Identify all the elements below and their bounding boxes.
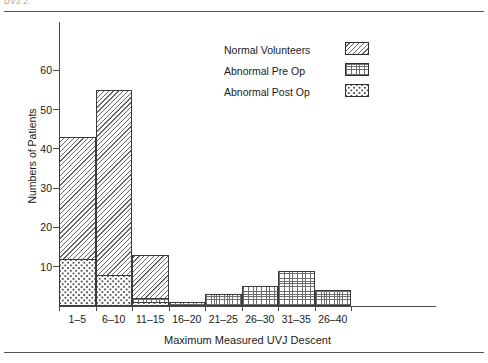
x-axis-tick — [351, 306, 352, 311]
bar — [242, 286, 279, 306]
bar-chart-plot: 102030405060 1–56–1011–1516–2021–2526–30… — [0, 0, 488, 363]
bar — [96, 275, 133, 306]
x-axis-tick — [59, 306, 60, 311]
fine-grid-swatch — [345, 63, 369, 76]
legend-item-label: Abnormal Post Op — [224, 86, 310, 98]
legend-item: Abnormal Post Op — [224, 84, 369, 105]
x-axis-tick — [242, 306, 243, 311]
chart-legend: Normal VolunteersAbnormal Pre OpAbnormal… — [224, 42, 369, 105]
x-axis-label: Maximum Measured UVJ Descent — [59, 334, 436, 346]
x-axis-tick — [169, 306, 170, 311]
legend-item: Normal Volunteers — [224, 42, 369, 63]
x-axis-tick — [132, 306, 133, 311]
x-axis-tick — [278, 306, 279, 311]
dense-stipple-swatch — [345, 84, 369, 97]
bar — [278, 271, 315, 306]
y-axis-tick-label: 10 — [26, 262, 52, 272]
legend-item: Abnormal Pre Op — [224, 63, 369, 84]
y-axis-tick — [53, 109, 60, 110]
legend-item-label: Normal Volunteers — [224, 44, 310, 56]
diagonal-hatch-swatch — [345, 42, 369, 55]
y-axis-tick-label: 60 — [26, 65, 52, 75]
bar — [132, 302, 169, 306]
y-axis-tick — [53, 70, 60, 71]
x-axis-tick-label: 26–40 — [308, 313, 358, 325]
x-axis-tick — [205, 306, 206, 311]
bar — [59, 259, 96, 306]
bar — [169, 302, 206, 306]
bar — [315, 290, 352, 306]
legend-item-label: Abnormal Pre Op — [224, 65, 305, 77]
y-axis-label: Numbers of Patients — [26, 76, 38, 236]
bar — [205, 294, 242, 306]
x-axis-tick — [315, 306, 316, 311]
figure-container: UVJ 2. 102030405060 1–56–1011–1516–2021–… — [0, 0, 488, 363]
x-axis-tick — [96, 306, 97, 311]
